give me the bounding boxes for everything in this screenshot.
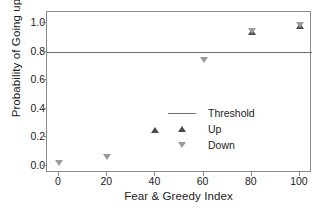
triangle-down-icon <box>178 142 186 148</box>
data-point-down-100 <box>296 22 304 28</box>
y-tick-mark <box>42 165 46 166</box>
data-point-down-20 <box>103 154 111 160</box>
x-tick-label: 0 <box>38 175 78 187</box>
y-tick-mark <box>42 136 46 137</box>
x-tick-mark <box>154 172 155 176</box>
x-tick-label: 40 <box>134 175 174 187</box>
threshold-line-swatch <box>168 113 196 114</box>
x-tick-mark <box>299 172 300 176</box>
legend-label: Down <box>208 137 235 153</box>
x-axis-label: Fear & Greedy Index <box>46 190 311 202</box>
chart-legend: ThresholdUpDown <box>162 105 262 153</box>
data-point-down-80 <box>248 28 256 34</box>
x-tick-label: 60 <box>183 175 223 187</box>
y-tick-mark <box>42 108 46 109</box>
legend-item-threshold: Threshold <box>162 105 262 121</box>
legend-label: Up <box>208 121 221 137</box>
y-tick-label: 0.0 <box>15 159 45 171</box>
data-point-down-60 <box>200 57 208 63</box>
legend-label: Threshold <box>208 105 255 121</box>
triangle-up-icon <box>178 126 186 132</box>
x-tick-label: 100 <box>279 175 319 187</box>
x-tick-label: 80 <box>231 175 271 187</box>
x-tick-mark <box>58 172 59 176</box>
legend-item-down: Down <box>162 137 262 153</box>
x-tick-mark <box>106 172 107 176</box>
legend-item-up: Up <box>162 121 262 137</box>
x-tick-label: 20 <box>86 175 126 187</box>
scatter-chart-figure: 0.00.20.40.60.81.0 020406080100 Probabil… <box>0 0 328 211</box>
data-point-up-40 <box>151 127 159 133</box>
y-axis-label: Probability of Going up <box>10 0 22 138</box>
threshold-line <box>47 52 312 53</box>
y-tick-mark <box>42 22 46 23</box>
x-tick-mark <box>251 172 252 176</box>
y-tick-mark <box>42 79 46 80</box>
x-tick-mark <box>203 172 204 176</box>
data-point-down-0 <box>55 160 63 166</box>
y-tick-mark <box>42 51 46 52</box>
